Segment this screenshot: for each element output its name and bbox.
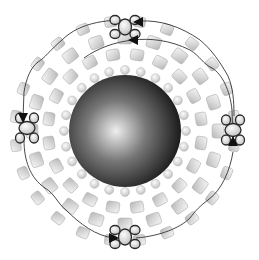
round-seed-bead	[179, 142, 188, 151]
cube-bead	[61, 197, 79, 215]
cube-bead	[82, 55, 99, 71]
highlighted-bead	[30, 113, 39, 123]
cube-bead	[186, 88, 202, 105]
highlighted-bead	[130, 240, 140, 249]
cube-bead	[220, 166, 234, 181]
cube-bead	[195, 112, 208, 127]
cube-bead	[145, 35, 162, 51]
highlighted-cluster-top	[110, 16, 140, 39]
cube-bead	[43, 112, 56, 127]
round-seed-bead	[90, 179, 99, 188]
cube-bead	[160, 226, 175, 240]
cube-bead	[16, 81, 30, 96]
highlighted-bead	[222, 115, 231, 125]
round-seed-bead	[164, 170, 173, 179]
cube-bead	[206, 94, 222, 111]
cube-bead	[106, 201, 121, 214]
highlighted-cluster-left	[16, 113, 39, 143]
cube-bead	[16, 166, 30, 181]
round-seed-bead	[77, 170, 86, 179]
highlighted-bead	[236, 115, 245, 125]
cube-bead	[82, 192, 99, 208]
round-seed-bead	[105, 185, 114, 194]
cube-bead	[145, 212, 162, 228]
cube-bead	[171, 47, 189, 65]
highlighted-bead	[16, 133, 25, 143]
cube-bead	[43, 136, 56, 151]
cube-bead	[49, 88, 65, 105]
cube-bead	[62, 177, 79, 194]
cube-bead	[160, 22, 175, 36]
highlighted-bead	[110, 16, 120, 25]
cube-bead	[171, 177, 188, 194]
bead-diagram-canvas	[0, 0, 259, 260]
round-seed-bead	[121, 188, 130, 197]
round-seed-bead	[121, 66, 130, 75]
round-seed-bead	[151, 179, 160, 188]
cube-bead	[195, 136, 208, 151]
central-focal-bead	[69, 75, 181, 187]
cube-bead	[184, 211, 200, 226]
cube-bead	[205, 56, 220, 72]
cube-bead	[50, 211, 66, 226]
cube-bead	[205, 190, 220, 206]
cube-bead	[152, 192, 169, 208]
cube-bead	[88, 212, 105, 228]
round-seed-bead	[173, 96, 182, 105]
round-seed-bead	[90, 74, 99, 83]
cube-bead	[62, 68, 79, 85]
cube-bead	[130, 201, 145, 214]
round-seed-bead	[62, 142, 71, 151]
round-seed-bead	[182, 127, 191, 136]
cube-bead	[49, 158, 65, 175]
round-seed-bead	[77, 83, 86, 92]
cube-bead	[29, 94, 45, 111]
cube-bead	[212, 124, 224, 138]
cube-bead	[186, 158, 202, 175]
round-seed-bead	[68, 157, 77, 166]
highlighted-bead	[222, 135, 231, 145]
bead-diagram	[0, 0, 259, 260]
cube-bead	[61, 47, 79, 65]
highlighted-bead	[110, 30, 120, 39]
round-seed-bead	[173, 157, 182, 166]
round-seed-bead	[62, 111, 71, 120]
cube-bead	[106, 49, 121, 62]
cube-bead	[152, 55, 169, 71]
round-seed-bead	[68, 96, 77, 105]
round-seed-bead	[60, 127, 69, 136]
cube-bead	[191, 67, 209, 85]
round-seed-bead	[164, 83, 173, 92]
cube-bead	[191, 177, 209, 195]
round-seed-bead	[136, 68, 145, 77]
round-seed-bead	[179, 111, 188, 120]
highlighted-bead	[236, 135, 245, 145]
cube-bead	[29, 151, 45, 168]
round-seed-bead	[136, 185, 145, 194]
round-seed-bead	[151, 74, 160, 83]
cube-bead	[171, 68, 188, 85]
cube-bead	[206, 151, 222, 168]
highlighted-bead	[110, 226, 120, 235]
cube-bead	[130, 49, 145, 62]
highlighted-bead	[130, 226, 140, 235]
cube-bead	[41, 67, 59, 85]
cube-bead	[171, 197, 189, 215]
round-seed-bead	[105, 68, 114, 77]
highlighted-bead	[30, 133, 39, 143]
cube-bead	[30, 190, 45, 206]
